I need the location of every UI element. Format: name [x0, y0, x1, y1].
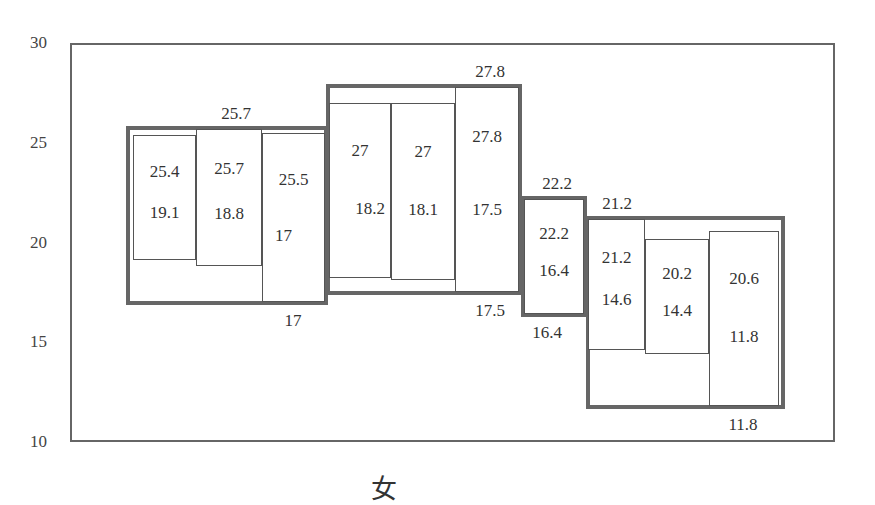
- bar-low-label: 19.1: [150, 203, 180, 223]
- bar-high-label: 27: [415, 142, 432, 162]
- bar-low-label: 16.4: [539, 261, 569, 281]
- range-bar: [196, 129, 262, 267]
- range-bar: [645, 239, 709, 355]
- outer-low-label: 11.8: [728, 415, 757, 435]
- bar-low-label: 11.8: [729, 327, 758, 347]
- bar-high-label: 25.5: [279, 170, 309, 190]
- outer-high-label: 27.8: [475, 62, 505, 82]
- bar-low-label: 17.5: [472, 200, 502, 220]
- bar-low-label: 14.6: [602, 290, 632, 310]
- outer-high-label: 21.2: [602, 194, 632, 214]
- bar-low-label: 18.2: [355, 199, 385, 219]
- y-tick-label: 20: [30, 233, 60, 253]
- range-bar: [455, 87, 519, 292]
- y-tick-label: 25: [30, 133, 60, 153]
- bar-high-label: 27.8: [472, 127, 502, 147]
- bar-low-label: 17: [275, 226, 292, 246]
- range-bar: [329, 103, 391, 279]
- x-axis-label: 女: [371, 468, 397, 505]
- range-bar: [588, 219, 645, 351]
- outer-high-label: 25.7: [221, 104, 251, 124]
- bar-high-label: 21.2: [602, 248, 632, 268]
- outer-high-label: 22.2: [542, 174, 572, 194]
- outer-low-label: 17: [285, 311, 302, 331]
- bar-high-label: 20.6: [729, 269, 759, 289]
- outer-low-label: 17.5: [475, 301, 505, 321]
- bar-high-label: 25.4: [150, 162, 180, 182]
- bar-high-label: 20.2: [662, 264, 692, 284]
- bar-low-label: 14.4: [662, 301, 692, 321]
- bar-high-label: 25.7: [214, 159, 244, 179]
- y-tick-label: 10: [30, 432, 60, 452]
- outer-low-label: 16.4: [532, 323, 562, 343]
- range-bar: [262, 133, 325, 303]
- bar-high-label: 22.2: [539, 224, 569, 244]
- range-bar: [709, 231, 779, 407]
- range-bar: [524, 199, 584, 315]
- range-bar: [133, 135, 196, 261]
- bar-low-label: 18.1: [408, 200, 438, 220]
- y-tick-label: 30: [30, 33, 60, 53]
- bar-low-label: 18.8: [214, 204, 244, 224]
- y-tick-label: 15: [30, 332, 60, 352]
- bar-high-label: 27: [352, 141, 369, 161]
- range-bar: [391, 103, 455, 281]
